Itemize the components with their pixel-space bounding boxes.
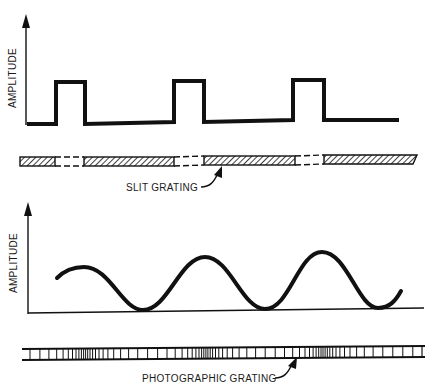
photographic-grating: PHOTOGRAPHIC GRATING (22, 346, 425, 384)
arrow-up-icon (22, 14, 30, 28)
slit-grating-label: SLIT GRATING (126, 182, 198, 193)
bottom-y-label: AMPLITUDE (8, 233, 19, 293)
top-panel: AMPLITUDE (7, 14, 399, 125)
bottom-x-axis (28, 308, 424, 313)
bottom-panel: AMPLITUDE (8, 202, 424, 314)
slit-bar (204, 156, 295, 165)
slit-bar (84, 157, 174, 166)
slit-gap (174, 156, 204, 157)
grating-diagram: AMPLITUDE SLIT GRATING (0, 0, 432, 391)
slit-gap (295, 155, 324, 156)
slit-grating: SLIT GRATING (20, 155, 417, 193)
top-y-axis (22, 14, 30, 125)
sine-wave (57, 252, 401, 310)
arrow-icon (214, 166, 222, 178)
arrow-up-icon (24, 202, 32, 216)
square-wave (27, 80, 399, 124)
photographic-grating-label: PHOTOGRAPHIC GRATING (142, 373, 277, 384)
top-y-label: AMPLITUDE (7, 48, 18, 108)
bottom-y-axis (24, 202, 32, 314)
slit-bar (20, 157, 55, 166)
slit-bar (324, 155, 417, 164)
